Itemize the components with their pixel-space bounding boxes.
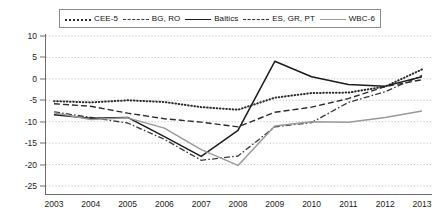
- legend-swatch-solid-light-icon: [320, 15, 346, 23]
- legend-item-baltics: Baltics: [185, 14, 238, 23]
- y-tick-mark: [40, 164, 45, 165]
- legend-label-baltics: Baltics: [214, 14, 238, 23]
- y-tick-mark: [40, 78, 45, 79]
- x-tick-label: 2010: [302, 199, 321, 209]
- y-tick-label: 0: [32, 74, 37, 84]
- y-tick-label: -10: [25, 117, 37, 127]
- y-tick-mark: [40, 121, 45, 122]
- x-tick-label: 2003: [45, 199, 64, 209]
- y-tick-label: 5: [32, 52, 37, 62]
- y-tick-label: -15: [25, 138, 37, 148]
- series-lines: [46, 28, 432, 194]
- x-axis-line: [45, 194, 432, 195]
- plot-region: 1050-5-10-15-20-25 200320042005200620072…: [0, 28, 438, 219]
- legend-swatch-dotted-icon: [65, 15, 91, 23]
- x-tick-label: 2007: [192, 199, 211, 209]
- y-axis-tick-labels: 1050-5-10-15-20-25: [0, 28, 44, 219]
- y-tick-mark: [40, 100, 45, 101]
- series-line-baltics: [54, 61, 422, 156]
- series-line-cee-5: [54, 69, 422, 109]
- x-tick-label: 2013: [413, 199, 432, 209]
- y-tick-mark: [40, 36, 45, 37]
- y-tick-label: 10: [28, 31, 37, 41]
- legend-item-wbc6: WBC-6: [320, 14, 375, 23]
- y-tick-mark: [40, 143, 45, 144]
- legend-item-bgro: BG, RO: [123, 14, 181, 23]
- plot-area: [46, 28, 432, 194]
- legend-item-esgrpt: ES, GR, PT: [243, 14, 315, 23]
- legend-swatch-solid-icon: [185, 15, 211, 23]
- chart-container: CEE-5 BG, RO Baltics ES, GR, PT WBC-6 10…: [0, 0, 438, 219]
- x-tick-label: 2012: [376, 199, 395, 209]
- x-tick-label: 2011: [339, 199, 357, 209]
- y-tick-label: -25: [25, 181, 37, 191]
- x-axis-tick-labels: 2003200420052006200720082009201020112012…: [46, 196, 432, 218]
- legend-swatch-dashed-icon: [243, 15, 269, 23]
- series-line-wbc-6: [54, 111, 422, 165]
- y-tick-label: -20: [25, 160, 37, 170]
- legend-swatch-dash-dot-icon: [123, 15, 149, 23]
- legend-label-cee5: CEE-5: [94, 14, 118, 23]
- y-tick-mark: [40, 57, 45, 58]
- legend-label-esgrpt: ES, GR, PT: [272, 14, 315, 23]
- x-tick-label: 2006: [155, 199, 174, 209]
- chart-legend: CEE-5 BG, RO Baltics ES, GR, PT WBC-6: [59, 9, 381, 28]
- x-tick-label: 2005: [118, 199, 137, 209]
- x-tick-label: 2004: [81, 199, 100, 209]
- y-tick-label: -5: [29, 95, 37, 105]
- y-tick-mark: [40, 186, 45, 187]
- legend-label-bgro: BG, RO: [152, 14, 181, 23]
- x-tick-label: 2009: [265, 199, 284, 209]
- legend-label-wbc6: WBC-6: [349, 14, 375, 23]
- legend-item-cee5: CEE-5: [65, 14, 118, 23]
- x-tick-label: 2008: [229, 199, 248, 209]
